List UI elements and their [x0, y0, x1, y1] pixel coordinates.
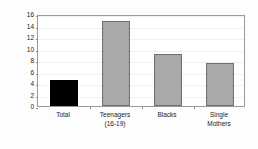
x-tick-mark — [90, 106, 91, 109]
x-tick-label-line1: Teenagers — [100, 111, 130, 118]
x-tick-label-line2: Mothers — [193, 119, 245, 128]
y-tick-mark — [36, 16, 38, 17]
x-tick-label: SingleMothers — [193, 110, 245, 128]
y-tick-mark — [36, 97, 38, 98]
y-tick-mark — [36, 51, 38, 52]
y-tick-mark — [36, 39, 38, 40]
x-axis-tick-labels: TotalTeenagers(16-19)BlacksSingleMothers — [37, 110, 245, 144]
bar[interactable] — [206, 63, 234, 106]
y-tick-mark — [36, 28, 38, 29]
y-tick-label: 10 — [16, 46, 34, 53]
bar[interactable] — [102, 21, 130, 106]
x-tick-mark — [194, 106, 195, 109]
y-tick-label: 4 — [16, 81, 34, 88]
y-tick-mark — [36, 74, 38, 75]
x-tick-label-line1: Total — [56, 111, 70, 118]
x-tick-label-line1: Blacks — [157, 111, 176, 118]
bar-series — [38, 16, 244, 106]
y-tick-mark — [36, 85, 38, 86]
y-tick-label: 2 — [16, 92, 34, 99]
y-tick-mark — [36, 62, 38, 63]
y-tick-label: 6 — [16, 69, 34, 76]
y-tick-label: 8 — [16, 58, 34, 65]
x-tick-label-line2: (16-19) — [89, 119, 141, 128]
y-axis-tick-labels: 0246810121416 — [16, 15, 34, 107]
x-tick-label: Total — [37, 110, 89, 119]
y-tick-label: 0 — [16, 104, 34, 111]
bar-slot — [38, 16, 90, 106]
x-tick-label-line1: Single — [210, 111, 228, 118]
x-tick-label: Blacks — [141, 110, 193, 119]
x-tick-mark — [142, 106, 143, 109]
bar[interactable] — [154, 54, 182, 106]
x-tick-label: Teenagers(16-19) — [89, 110, 141, 128]
bar-chart: Percent 0246810121416 TotalTeenagers(16-… — [0, 0, 258, 149]
bar-slot — [194, 16, 246, 106]
plot-area — [37, 15, 245, 107]
y-tick-label: 12 — [16, 35, 34, 42]
bar-slot — [90, 16, 142, 106]
y-tick-label: 16 — [16, 12, 34, 19]
y-tick-label: 14 — [16, 23, 34, 30]
bar[interactable] — [50, 80, 78, 106]
y-tick-mark — [36, 108, 38, 109]
bar-slot — [142, 16, 194, 106]
